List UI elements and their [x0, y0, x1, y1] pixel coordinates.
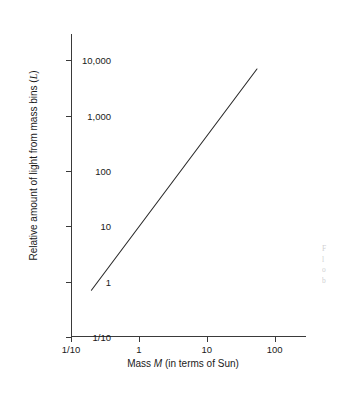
y-axis-title: Relative amount of light from mass bins … — [28, 28, 39, 304]
x-axis-title-symbol: M — [154, 358, 162, 369]
x-axis-title: Mass M (in terms of Sun) — [71, 358, 295, 369]
x-tick-label: 10 — [201, 344, 212, 355]
x-tick-label: 1 — [136, 344, 141, 355]
x-axis-title-tail: (in terms of Sun) — [162, 358, 239, 369]
plot-area: 10,0001,0001001011/10 1/10110100 — [71, 34, 295, 337]
y-axis-title-plain: Relative amount of light from mass bins … — [28, 79, 39, 260]
data-series-line — [71, 34, 295, 337]
x-tick-label: 1/10 — [62, 344, 81, 355]
x-axis-tick-labels: 1/10110100 — [71, 336, 306, 356]
x-axis-title-plain: Mass — [127, 358, 154, 369]
mass-luminosity-chart: 10,0001,0001001011/10 1/10110100 Mass M … — [0, 0, 352, 393]
x-tick-label: 100 — [267, 344, 283, 355]
y-axis-title-symbol: L — [28, 74, 39, 80]
y-axis-title-tail: ) — [28, 70, 39, 73]
